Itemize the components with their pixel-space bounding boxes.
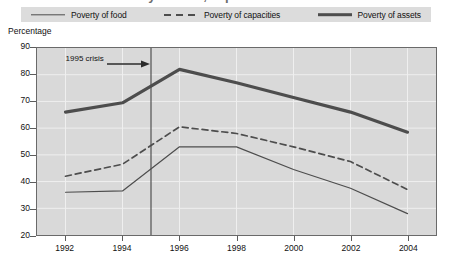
y-axis-label: 70	[4, 96, 30, 105]
y-axis-label: 20	[4, 231, 30, 240]
y-axis-label: 30	[4, 204, 30, 213]
legend-label: Poverty of food	[71, 10, 127, 20]
x-axis-label: 1992	[45, 244, 85, 253]
legend-item-poverty-of-assets: Poverty of assets	[318, 10, 422, 20]
crisis-arrow-icon	[107, 60, 151, 68]
legend-swatch-solid-thick-icon	[318, 11, 352, 19]
legend-item-poverty-of-capacities: Poverty of capacities	[164, 10, 280, 20]
chart-legend: Poverty of food Poverty of capacities Po…	[21, 7, 431, 22]
plot-area	[36, 47, 437, 236]
x-axis-label: 2004	[388, 244, 428, 253]
chart-title-strip: Poverty of food, capacities and assets	[0, 0, 452, 6]
y-axis-label: 40	[4, 177, 30, 186]
legend-swatch-dashed-icon	[164, 11, 198, 19]
crisis-annotation-label: 1995 crisis	[66, 54, 104, 63]
y-axis-label: 60	[4, 123, 30, 132]
legend-label: Poverty of assets	[358, 10, 422, 20]
x-axis-tick	[408, 236, 409, 241]
x-axis-tick	[179, 236, 180, 241]
x-axis-tick	[294, 236, 295, 241]
caption-strip	[0, 258, 452, 267]
x-axis-tick	[351, 236, 352, 241]
x-axis-label: 2000	[274, 244, 314, 253]
x-axis-tick	[122, 236, 123, 241]
y-axis-label: 50	[4, 150, 30, 159]
x-axis-tick	[237, 236, 238, 241]
x-axis-label: 2002	[331, 244, 371, 253]
x-axis-tick	[65, 236, 66, 241]
y-axis-label: 90	[4, 42, 30, 51]
legend-item-poverty-of-food: Poverty of food	[31, 10, 127, 20]
page-title: Poverty of food, capacities and assets	[0, 0, 452, 3]
legend-label: Poverty of capacities	[204, 10, 280, 20]
chart-figure: Poverty of food, capacities and assets P…	[0, 0, 452, 267]
x-axis-label: 1998	[217, 244, 257, 253]
x-axis-label: 1994	[102, 244, 142, 253]
series-canvas	[37, 48, 436, 235]
y-axis-label: 80	[4, 69, 30, 78]
x-axis-label: 1996	[159, 244, 199, 253]
legend-swatch-solid-thin-icon	[31, 11, 65, 19]
y-axis: 2030405060708090	[0, 0, 30, 267]
